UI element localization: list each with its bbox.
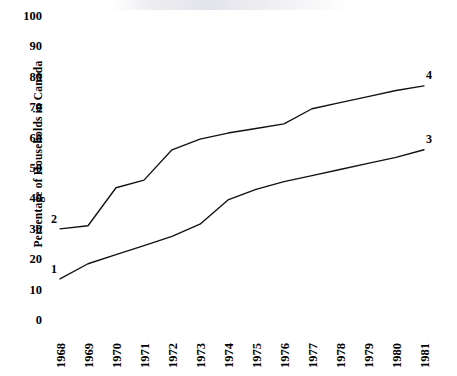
plot-area bbox=[0, 0, 457, 376]
series-start-label-1: 1 bbox=[51, 263, 57, 275]
series-line-1 bbox=[60, 150, 424, 279]
series-end-label-3: 3 bbox=[426, 133, 432, 145]
line-chart: Percentage of Households in Canada 01020… bbox=[0, 0, 457, 376]
series-line-2 bbox=[60, 86, 424, 229]
series-end-label-4: 4 bbox=[426, 69, 432, 81]
series-start-label-2: 2 bbox=[51, 213, 57, 225]
